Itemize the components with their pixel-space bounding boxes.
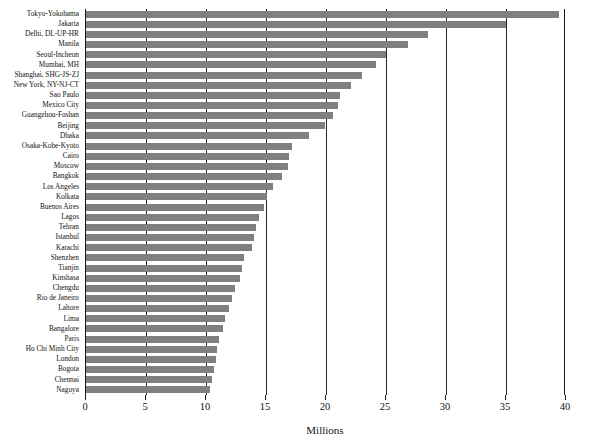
bar-row <box>86 182 566 192</box>
y-axis-label: Mumbai, MH <box>0 61 79 69</box>
bar-row <box>86 90 566 100</box>
bar-row <box>86 212 566 222</box>
y-axis-label: Mexico City <box>0 101 79 109</box>
bar <box>86 376 212 383</box>
y-axis-label: Chengdu <box>0 284 79 292</box>
bar-chart: Tokyo-YokohamaJakartaDelhi, DL-UP-HRMani… <box>0 0 592 446</box>
bar <box>86 305 229 312</box>
y-axis-label: Shanghai, SHG-JS-ZJ <box>0 71 79 79</box>
x-tick-15 <box>265 395 266 400</box>
x-tick-10 <box>205 395 206 400</box>
bar-row <box>86 29 566 39</box>
x-tick-0 <box>85 395 86 400</box>
x-tick-30 <box>445 395 446 400</box>
bar-row <box>86 192 566 202</box>
y-axis-label: Los Angeles <box>0 183 79 191</box>
bar-row <box>86 283 566 293</box>
bar <box>86 122 325 129</box>
bar <box>86 336 219 343</box>
y-axis-label: London <box>0 355 79 363</box>
bar <box>86 356 216 363</box>
y-axis-label: Jakarta <box>0 20 79 28</box>
y-axis-label: Lagos <box>0 213 79 221</box>
bar-row <box>86 304 566 314</box>
y-axis-label: Bogota <box>0 365 79 373</box>
bar <box>86 92 340 99</box>
bar <box>86 41 408 48</box>
y-axis-label: Manila <box>0 40 79 48</box>
bar <box>86 132 309 139</box>
y-axis-category-labels: Tokyo-YokohamaJakartaDelhi, DL-UP-HRMani… <box>0 9 82 395</box>
y-axis-label: Buenos Aires <box>0 203 79 211</box>
bar-row <box>86 385 566 395</box>
y-axis-label: Ho Chi Minh City <box>0 345 79 353</box>
y-axis-label: Karachi <box>0 244 79 252</box>
y-axis-label: Kolkata <box>0 193 79 201</box>
bar-series <box>86 9 564 395</box>
bar-row <box>86 344 566 354</box>
y-axis-label: Seoul-Incheon <box>0 51 79 59</box>
bar-row <box>86 334 566 344</box>
bar-row <box>86 121 566 131</box>
x-tick-label-40: 40 <box>545 401 585 413</box>
x-axis: 0510152025303540 <box>85 395 565 396</box>
x-tick-label-35: 35 <box>485 401 525 413</box>
y-axis-label: Bangalore <box>0 325 79 333</box>
bar-row <box>86 375 566 385</box>
x-tick-25 <box>385 395 386 400</box>
y-axis-label: Bangkok <box>0 172 79 180</box>
bar-row <box>86 161 566 171</box>
bar <box>86 72 362 79</box>
bar <box>86 325 223 332</box>
bar <box>86 285 235 292</box>
bar <box>86 315 225 322</box>
y-axis-label: New York, NY-NJ-CT <box>0 81 79 89</box>
y-axis-label: Shenzhen <box>0 254 79 262</box>
bar-row <box>86 151 566 161</box>
bar <box>86 51 386 58</box>
bar-row <box>86 80 566 90</box>
bar-row <box>86 263 566 273</box>
y-axis-label: Rio de Janeiro <box>0 294 79 302</box>
bar-row <box>86 273 566 283</box>
plot-area <box>85 9 565 395</box>
x-tick-label-10: 10 <box>185 401 225 413</box>
y-axis-label: Istanbul <box>0 233 79 241</box>
y-axis-label: Kinshasa <box>0 274 79 282</box>
bar <box>86 11 559 18</box>
x-tick-20 <box>325 395 326 400</box>
y-axis-label: Nagoya <box>0 386 79 394</box>
bar <box>86 82 351 89</box>
bar-row <box>86 232 566 242</box>
bar-row <box>86 222 566 232</box>
bar <box>86 295 232 302</box>
x-tick-5 <box>145 395 146 400</box>
y-axis-label: Osaka-Kobe-Kyoto <box>0 142 79 150</box>
bar <box>86 183 273 190</box>
bar <box>86 21 506 28</box>
bar <box>86 346 217 353</box>
bar <box>86 366 214 373</box>
y-axis-label: Cairo <box>0 152 79 160</box>
x-tick-label-30: 30 <box>425 401 465 413</box>
bar <box>86 102 338 109</box>
y-axis-label: Lima <box>0 315 79 323</box>
y-axis-label: Dhaka <box>0 132 79 140</box>
x-tick-label-0: 0 <box>65 401 105 413</box>
y-axis-label: Sao Paulo <box>0 91 79 99</box>
bar <box>86 173 282 180</box>
bar-row <box>86 293 566 303</box>
bar <box>86 214 259 221</box>
bar-row <box>86 70 566 80</box>
y-axis-label: Beijing <box>0 122 79 130</box>
bar-row <box>86 365 566 375</box>
bar <box>86 143 292 150</box>
bar <box>86 61 376 68</box>
bar-row <box>86 131 566 141</box>
x-tick-label-15: 15 <box>245 401 285 413</box>
bar-row <box>86 39 566 49</box>
x-axis-title: Millions <box>85 424 565 437</box>
bar <box>86 275 240 282</box>
bar-row <box>86 100 566 110</box>
bar <box>86 224 256 231</box>
